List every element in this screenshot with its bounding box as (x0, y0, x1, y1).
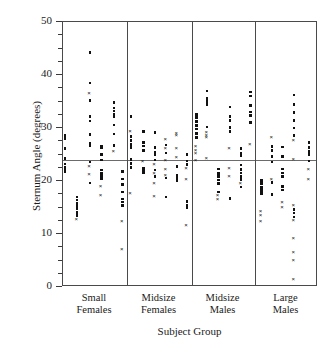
data-point-dot (271, 193, 274, 196)
x-axis-title: Subject Group (62, 325, 317, 337)
data-point-dot (281, 155, 284, 158)
group-label-line2: Females (126, 304, 191, 316)
data-point-dot (240, 154, 243, 157)
data-point-dot (240, 147, 243, 150)
data-point-dot (142, 145, 145, 148)
data-point-dot (229, 197, 232, 200)
data-point-dot (195, 128, 198, 131)
group-label-midsize-females: MidsizeFemales (126, 292, 191, 316)
data-point-dot (121, 183, 124, 186)
data-point-dot (64, 157, 67, 160)
data-point-dot (154, 146, 157, 149)
data-point-dot (89, 182, 92, 185)
data-point-dot (229, 106, 232, 109)
data-point-dot (130, 146, 133, 149)
chart-canvas: Sternum Angle (degrees) 01020304050 Smal… (0, 0, 334, 345)
data-point-dot (271, 161, 274, 164)
data-point-dot (64, 170, 67, 173)
data-point-dot (186, 200, 189, 203)
data-point-dot (293, 94, 296, 97)
data-point-dot (217, 182, 220, 185)
data-point-dot (89, 133, 92, 136)
data-point-dot (113, 124, 116, 127)
data-point-dot (206, 103, 209, 106)
y-tick-label: 30 (12, 121, 52, 132)
data-point-dot (89, 115, 92, 118)
y-tick-major (56, 286, 62, 287)
data-point-dot (100, 169, 103, 172)
y-tick-label: 50 (12, 15, 52, 26)
data-point-dot (130, 115, 133, 118)
data-point-dot (271, 181, 274, 184)
data-point-dot (271, 149, 274, 152)
data-point-dot (142, 171, 145, 174)
data-point-dot (89, 120, 92, 123)
data-point-dot (100, 177, 103, 180)
data-point-dot (130, 162, 133, 165)
data-point-dot (130, 139, 133, 142)
data-point-dot (165, 177, 168, 180)
data-point-dot (154, 175, 157, 178)
data-point-dot (89, 145, 92, 148)
data-point-dot (195, 116, 198, 119)
data-point-dot (142, 149, 145, 152)
data-point-dot (217, 168, 220, 171)
data-point-dot (165, 196, 168, 199)
data-point-dot (271, 155, 274, 158)
panel-divider (255, 22, 256, 285)
plot-area (62, 21, 317, 286)
data-point-dot (281, 175, 284, 178)
data-point-dot (206, 126, 209, 129)
data-point-dot (186, 153, 189, 156)
data-point-dot (113, 144, 116, 147)
group-label-line2: Males (191, 304, 254, 316)
group-label-line2: Males (254, 304, 317, 316)
data-point-dot (293, 212, 296, 215)
data-point-dot (113, 101, 116, 104)
group-label-small-females: SmallFemales (62, 292, 126, 316)
data-point-dot (195, 136, 198, 139)
data-point-dot (130, 158, 133, 161)
data-point-dot (229, 130, 232, 133)
data-point-dot (113, 116, 116, 119)
data-point-dot (281, 189, 284, 192)
data-point-dot (229, 119, 232, 122)
data-point-dot (249, 95, 252, 98)
group-label-line1: Midsize (191, 292, 254, 304)
data-point-dot (281, 168, 284, 171)
data-point-dot (281, 146, 284, 149)
data-point-dot (195, 124, 198, 127)
data-point-dot (249, 121, 252, 124)
data-point-dot (281, 185, 284, 188)
data-point-dot (64, 147, 67, 150)
data-point-dot (142, 141, 145, 144)
data-point-dot (240, 186, 243, 189)
y-tick-label: 40 (12, 68, 52, 79)
panel-divider (127, 22, 128, 285)
group-label-large-males: LargeMales (254, 292, 317, 316)
data-point-dot (229, 126, 232, 129)
data-point-dot (89, 99, 92, 102)
data-point-dot (89, 51, 92, 54)
data-point-dot (130, 135, 133, 138)
data-point-dot (249, 114, 252, 117)
data-point-dot (186, 207, 189, 210)
data-point-dot (249, 104, 252, 107)
data-point-dot (308, 153, 311, 156)
data-point-dot (293, 127, 296, 130)
data-point-dot (121, 204, 124, 207)
data-point-dot (308, 146, 311, 149)
data-point-dot (293, 103, 296, 106)
y-tick-label: 0 (12, 280, 52, 291)
data-point-dot (121, 191, 124, 194)
data-point-dot (100, 147, 103, 150)
data-point-dot (308, 160, 311, 163)
data-point-dot (100, 159, 103, 162)
data-point-dot (64, 137, 67, 140)
data-point-dot (176, 165, 179, 168)
data-point-dot (308, 141, 311, 144)
group-label-line2: Females (62, 304, 126, 316)
data-point-dot (130, 166, 133, 169)
data-point-dot (121, 178, 124, 181)
data-point-dot (229, 115, 232, 118)
